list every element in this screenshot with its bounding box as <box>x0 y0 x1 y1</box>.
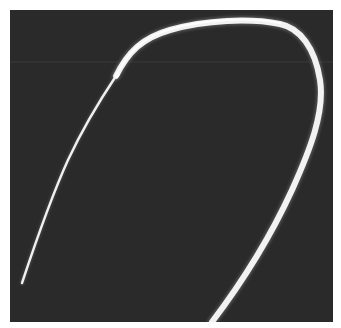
catheter-photo: Photograph of a white curved catheter wi… <box>10 10 333 322</box>
catheter-illustration <box>10 10 333 322</box>
dark-background <box>10 10 333 322</box>
